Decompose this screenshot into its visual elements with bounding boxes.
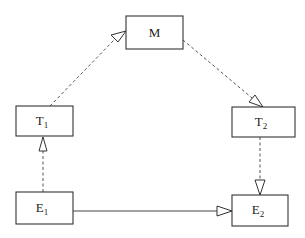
node-label: E [36, 200, 44, 215]
edge-m-to-t2 [183, 40, 263, 107]
node-t1: T1 [16, 106, 73, 136]
node-label: T [255, 114, 263, 129]
node-t2: T2 [232, 107, 295, 137]
edge-t1-to-m [50, 31, 126, 106]
arrowhead-icon [255, 180, 265, 195]
node-label: T [36, 113, 44, 128]
edge-t2-to-e2 [255, 137, 265, 195]
node-subscript: 1 [44, 207, 49, 217]
edge-e1-to-t1 [39, 137, 47, 192]
node-e2: E2 [232, 195, 288, 226]
arrowhead-icon [39, 137, 47, 151]
node-subscript: 2 [263, 121, 268, 131]
node-m: M [126, 16, 183, 49]
arrowhead-icon [111, 31, 126, 42]
node-label: M [149, 25, 161, 40]
node-label: E [252, 202, 260, 217]
svg-text:M: M [149, 25, 161, 40]
edge-e1-to-e2 [73, 206, 232, 216]
node-subscript: 2 [260, 209, 265, 219]
diagram-canvas: M T1 T2 E1 E2 [0, 0, 305, 238]
arrowhead-icon [217, 206, 232, 216]
node-e1: E1 [16, 192, 73, 224]
node-subscript: 1 [44, 120, 49, 130]
